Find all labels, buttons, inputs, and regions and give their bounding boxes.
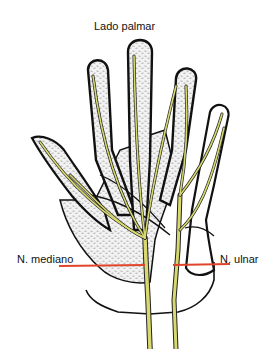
median-nerve-label: N. mediano bbox=[17, 253, 73, 265]
ulnar-nerve-label: N. ulnar bbox=[220, 253, 259, 265]
median-section-line bbox=[59, 265, 145, 266]
diagram-title: Lado palmar bbox=[94, 20, 155, 32]
hand-illustration bbox=[0, 0, 274, 349]
